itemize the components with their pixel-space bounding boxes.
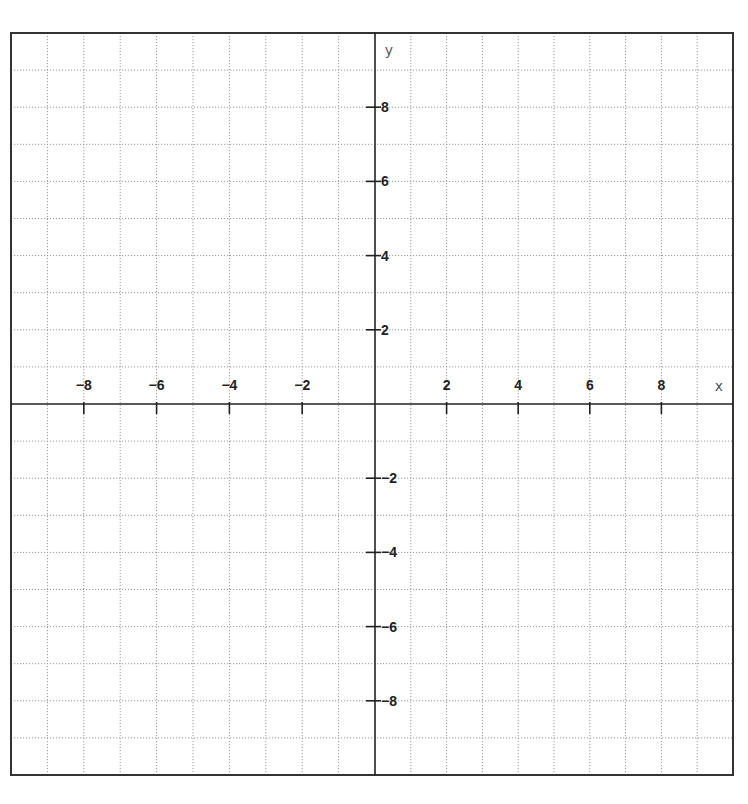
y-tick-label: −8 [381, 693, 397, 709]
y-axis-label: y [385, 42, 393, 58]
y-tick-label: 4 [381, 248, 389, 264]
y-tick-label: 2 [381, 322, 389, 338]
coordinate-plane: −8−6−4−22468 8642−2−4−6−8 x y [0, 0, 748, 804]
x-tick-label: −2 [294, 377, 310, 393]
x-axis-ticks: −8−6−4−22468 [76, 377, 666, 414]
y-tick-label: −6 [381, 619, 397, 635]
y-tick-label: −4 [381, 544, 397, 560]
x-tick-label: −4 [221, 377, 237, 393]
y-tick-label: 6 [381, 173, 389, 189]
x-tick-label: −6 [149, 377, 165, 393]
x-tick-label: 4 [514, 377, 522, 393]
x-axis-label: x [715, 378, 723, 394]
x-tick-label: 2 [443, 377, 451, 393]
y-tick-label: −2 [381, 470, 397, 486]
y-tick-label: 8 [381, 99, 389, 115]
x-tick-label: −8 [76, 377, 92, 393]
x-tick-label: 6 [586, 377, 594, 393]
x-tick-label: 8 [658, 377, 666, 393]
